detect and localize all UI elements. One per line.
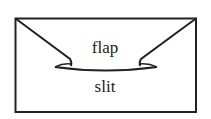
slit-line	[55, 67, 157, 71]
slit-right-hook	[140, 64, 157, 67]
envelope-outline	[16, 19, 197, 113]
flap-label: flap	[92, 38, 118, 57]
envelope-diagram: flap slit	[0, 0, 211, 119]
flap-right-edge	[140, 19, 196, 67]
slit-label: slit	[95, 77, 116, 96]
slit-left-hook	[55, 64, 71, 67]
flap-left-edge	[16, 19, 72, 67]
